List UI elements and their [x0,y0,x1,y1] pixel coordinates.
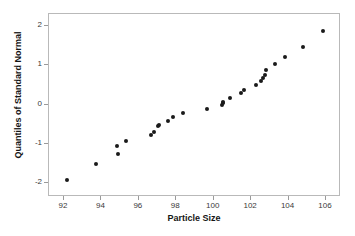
x-tick-label: 92 [48,201,78,210]
data-point [124,139,128,143]
qq-plot-figure: 92949698100102104106 210-1-2 Particle Si… [0,0,355,236]
data-point [239,91,243,95]
y-tick-mark [44,104,48,105]
x-tick-mark [63,196,64,200]
x-tick-label: 98 [160,201,190,210]
x-tick-mark [288,196,289,200]
data-point [242,88,246,92]
x-axis-title: Particle Size [48,213,340,223]
data-point [301,45,305,49]
x-tick-label: 102 [235,201,265,210]
x-tick-mark [325,196,326,200]
y-tick-mark [44,182,48,183]
x-tick-mark [138,196,139,200]
x-tick-mark [250,196,251,200]
x-tick-label: 94 [85,201,115,210]
data-point [264,68,268,72]
data-point [115,144,119,148]
y-axis-title: Quantiles of Standard Normal [13,15,23,175]
data-point [321,29,325,33]
plot-area [48,13,340,196]
data-point [166,119,170,123]
data-point [181,111,185,115]
data-point [254,83,258,87]
data-point [65,178,69,182]
x-tick-label: 100 [198,201,228,210]
scatter-points-layer [49,14,339,195]
data-point [228,96,232,100]
data-point [94,162,98,166]
x-tick-label: 96 [123,201,153,210]
x-tick-label: 106 [310,201,340,210]
data-point [221,100,225,104]
x-tick-label: 104 [273,201,303,210]
data-point [273,62,277,66]
x-tick-mark [100,196,101,200]
y-tick-label: -2 [18,177,42,186]
x-tick-mark [213,196,214,200]
data-point [152,130,156,134]
data-point [171,115,175,119]
data-point [205,107,209,111]
y-tick-mark [44,143,48,144]
data-point [263,73,267,77]
y-tick-mark [44,25,48,26]
data-point [116,152,120,156]
x-tick-mark [175,196,176,200]
y-tick-mark [44,64,48,65]
data-point [283,55,287,59]
data-point [157,123,161,127]
